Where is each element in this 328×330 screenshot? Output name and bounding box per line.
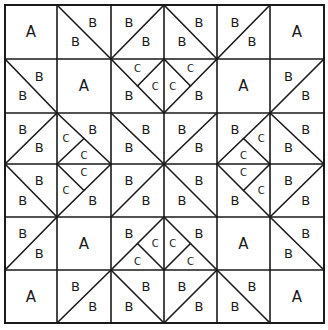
quilt-cell: BB <box>270 217 324 270</box>
quilt-cell: BCC <box>217 164 270 217</box>
diagonal-seam <box>5 164 57 217</box>
piece-b-label: B <box>142 34 151 49</box>
piece-b-label: B <box>35 69 44 84</box>
quilt-cell: BB <box>270 59 324 113</box>
piece-b-label: B <box>71 279 80 294</box>
quilt-cell: BB <box>5 113 57 164</box>
piece-b-label: B <box>301 88 310 103</box>
piece-b-label: B <box>284 173 293 188</box>
piece-c-label: C <box>240 150 247 161</box>
quilt-cell: BB <box>164 270 217 323</box>
piece-a-label: A <box>292 288 303 306</box>
piece-a-label: A <box>26 23 37 41</box>
quilt-cell: A <box>292 23 303 41</box>
diagonal-seam <box>111 113 164 164</box>
quilt-cell: BB <box>111 5 164 59</box>
diagonal-seam <box>217 270 270 323</box>
quilt-cell: BCC <box>57 164 111 217</box>
piece-b-label: B <box>35 173 44 188</box>
piece-b-label: B <box>178 193 187 208</box>
quilt-grid-lines <box>5 5 324 323</box>
quilt-cell: BB <box>217 270 270 323</box>
piece-a-label: A <box>238 235 249 253</box>
piece-b-label: B <box>195 15 204 30</box>
quilt-cell: A <box>238 77 249 95</box>
quilt-cell: BCC <box>111 59 164 113</box>
diagonal-seam <box>164 270 217 323</box>
piece-b-label: B <box>195 173 204 188</box>
piece-b-label: B <box>142 193 151 208</box>
piece-b-label: B <box>231 193 240 208</box>
piece-b-label: B <box>301 122 310 137</box>
piece-b-label: B <box>301 193 310 208</box>
diagonal-seam <box>5 217 57 270</box>
piece-b-label: B <box>284 69 293 84</box>
quilt-block-diagram: ABBBBBBBBABBABCCBCCABBBBBCCBBBBBCCBBBBBC… <box>0 0 328 330</box>
piece-b-label: B <box>231 15 240 30</box>
piece-b-label: B <box>125 173 134 188</box>
piece-b-label: B <box>284 246 293 261</box>
piece-c-label: C <box>63 133 70 144</box>
diagonal-seam <box>164 164 217 217</box>
piece-c-label: C <box>134 63 141 74</box>
quilt-cell: A <box>26 23 37 41</box>
piece-c-label: C <box>81 167 88 178</box>
quilt-cell: A <box>79 77 90 95</box>
diagonal-seam <box>5 113 57 164</box>
piece-b-label: B <box>142 279 151 294</box>
quilt-cell: BB <box>270 113 324 164</box>
quilt-cell: BB <box>164 164 217 217</box>
piece-a-label: A <box>26 288 37 306</box>
piece-b-label: B <box>231 122 240 137</box>
piece-a-label: A <box>79 235 90 253</box>
quilt-cell: BCC <box>217 113 270 164</box>
quilt-cell: BCC <box>164 59 217 113</box>
quilt-cell: BB <box>57 5 111 59</box>
diagonal-seam <box>270 113 324 164</box>
piece-b-label: B <box>178 279 187 294</box>
quilt-cell: BB <box>270 164 324 217</box>
piece-c-label: C <box>152 81 159 92</box>
piece-a-label: A <box>79 77 90 95</box>
piece-b-label: B <box>195 140 204 155</box>
quilt-cell: BB <box>5 217 57 270</box>
diagonal-seam <box>111 270 164 323</box>
piece-c-label: C <box>258 133 265 144</box>
piece-b-label: B <box>88 122 97 137</box>
piece-b-label: B <box>125 140 134 155</box>
diagonal-seam <box>164 113 217 164</box>
piece-b-label: B <box>195 299 204 314</box>
quilt-cell: BCC <box>164 217 217 270</box>
quilt-cell: A <box>292 288 303 306</box>
piece-c-label: C <box>152 238 159 249</box>
diagonal-seam <box>111 5 164 59</box>
piece-b-label: B <box>195 88 204 103</box>
piece-c-label: C <box>63 185 70 196</box>
quilt-cell: A <box>238 235 249 253</box>
quilt-cell: BCC <box>111 217 164 270</box>
quilt-cell: BB <box>164 113 217 164</box>
quilt-cell: A <box>26 288 37 306</box>
piece-b-label: B <box>125 226 134 241</box>
quilt-cell: BB <box>217 5 270 59</box>
piece-c-label: C <box>258 185 265 196</box>
piece-c-label: C <box>81 150 88 161</box>
piece-b-label: B <box>284 140 293 155</box>
diagonal-seam <box>57 270 111 323</box>
diagonal-seam <box>217 5 270 59</box>
piece-c-label: C <box>134 256 141 267</box>
piece-b-label: B <box>18 193 27 208</box>
piece-c-label: C <box>240 167 247 178</box>
quilt-cell: A <box>79 235 90 253</box>
diagonal-seam <box>270 217 324 270</box>
piece-a-label: A <box>238 77 249 95</box>
piece-b-label: B <box>18 88 27 103</box>
piece-b-label: B <box>125 15 134 30</box>
quilt-cell: BB <box>164 5 217 59</box>
piece-c-label: C <box>187 63 194 74</box>
piece-c-label: C <box>187 256 194 267</box>
piece-b-label: B <box>125 88 134 103</box>
diagonal-seam <box>164 5 217 59</box>
quilt-cell: BB <box>111 164 164 217</box>
piece-b-label: B <box>248 279 257 294</box>
